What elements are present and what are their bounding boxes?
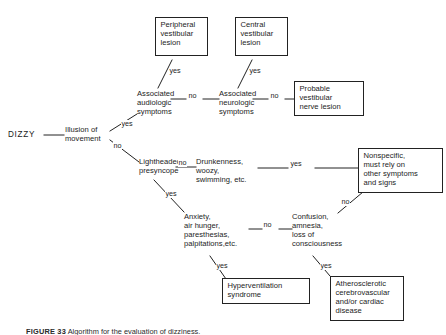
node-associated-neurologic-symptoms: Associated neurologic symptoms (219, 90, 269, 117)
edge-label-illusion-yes: yes (121, 120, 133, 128)
node-associated-audiologic-symptoms: Associated audiologic symptoms (137, 90, 187, 117)
edge-label-nonspecific-no: no (341, 198, 350, 206)
edge-label-lightheaded-yes: yes (165, 190, 177, 198)
node-drunkenness-woozy-swimming: Drunkenness, woozy, swimming, etc. (196, 158, 262, 185)
edge-label-lightheaded-no: no (178, 159, 187, 167)
node-central-vestibular-lesion: Central vestibular lesion (235, 17, 288, 56)
node-illusion-of-movement: Illusion of movement (65, 126, 113, 144)
edge-label-neurologic-yes: yes (249, 67, 261, 75)
edge-label-anxiety-no: no (263, 221, 272, 229)
node-probable-vestibular-nerve-lesion: Probable vestibular nerve lesion (294, 81, 364, 116)
edge-label-illusion-no: no (113, 142, 122, 150)
node-peripheral-vestibular-lesion: Peripheral vestibular lesion (155, 17, 208, 56)
figure-caption-text: Algorithm for the evaluation of dizzines… (66, 327, 200, 335)
node-confusion-amnesia-loss-of-consciousness: Confusion, amnesia, loss of consciousnes… (292, 213, 354, 249)
node-anxiety-air-hunger-paresthesias: Anxiety, air hunger, paresthesias, palpi… (184, 213, 252, 249)
node-nonspecific-must-rely-on-other-symptoms: Nonspecific, must rely on other symptoms… (358, 148, 443, 193)
figure-caption-label: FIGURE 33 (26, 327, 66, 335)
edge-label-confusion-yes: yes (320, 262, 332, 270)
edge-label-drunkenness-yes: yes (290, 160, 302, 168)
edge-label-audiologic-no: no (188, 92, 197, 100)
figure-caption: FIGURE 33 Algorithm for the evaluation o… (26, 327, 306, 335)
node-atherosclerotic-cerebrovascular-cardiac-disease: Atherosclerotic cerebrovascular and/or c… (330, 276, 404, 321)
node-dizzy: DIZZY (8, 130, 35, 139)
edge-label-audiologic-yes: yes (169, 67, 181, 75)
node-hyperventilation-syndrome: Hyperventilation syndrome (222, 278, 310, 304)
edge-label-anxiety-yes: yes (216, 262, 228, 270)
figure-canvas: DIZZY Illusion of movement Associated au… (0, 0, 446, 335)
edge-label-neurologic-no: no (270, 92, 279, 100)
